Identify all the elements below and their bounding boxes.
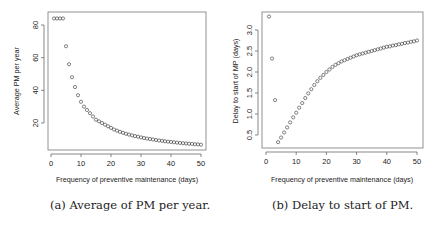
data-point [385, 45, 388, 48]
data-point [85, 108, 88, 111]
data-point [394, 44, 397, 47]
data-point [397, 43, 400, 46]
data-point [376, 48, 379, 51]
data-point [139, 136, 142, 139]
panel-a-plot-box [48, 12, 206, 150]
data-point [289, 121, 292, 124]
x-tick-label: 0 [49, 159, 53, 168]
data-point [343, 59, 346, 62]
data-point [133, 134, 136, 137]
x-tick-label: 50 [413, 157, 421, 166]
panel-b-plot-box [262, 12, 423, 148]
x-tick-label: 10 [292, 157, 300, 166]
data-point [364, 51, 367, 54]
data-point [280, 136, 283, 139]
y-tick-label: 2.5 [245, 46, 254, 56]
data-point [316, 80, 319, 83]
panel-b-x-axis-title: Frequency of preventive maintenance (day… [271, 175, 413, 184]
data-point [70, 76, 73, 79]
data-point [106, 125, 109, 128]
data-point [130, 134, 133, 137]
data-point [64, 45, 67, 48]
data-point [100, 121, 103, 124]
y-tick-label: 3.0 [245, 25, 254, 35]
data-point [337, 62, 340, 65]
data-point [379, 47, 382, 50]
data-point [163, 140, 166, 143]
x-tick-label: 40 [383, 157, 391, 166]
data-point [109, 126, 112, 129]
data-point [415, 39, 418, 42]
panel-a-x-axis: 01020304050 [49, 154, 205, 168]
data-point [97, 120, 100, 123]
data-point [91, 115, 94, 118]
data-point [127, 133, 130, 136]
x-tick-label: 30 [352, 157, 360, 166]
panel-b-caption: (b) Delay to start of PM. [272, 198, 413, 212]
panel-b-x-axis: 01020304050 [264, 152, 421, 166]
y-tick-label: 1.5 [245, 88, 254, 98]
data-point [367, 50, 370, 53]
y-tick-label: 20 [31, 119, 40, 127]
data-point [340, 60, 343, 63]
x-tick-label: 10 [77, 159, 85, 168]
data-point [157, 139, 160, 142]
data-point [175, 141, 178, 144]
panel-a-caption: (a) Average of PM per year. [50, 198, 210, 212]
panel-a-y-axis: 20406080 [31, 21, 44, 127]
data-point [301, 101, 304, 104]
x-tick-label: 40 [167, 159, 175, 168]
data-point [67, 63, 70, 66]
x-tick-label: 50 [197, 159, 205, 168]
data-point [304, 96, 307, 99]
y-tick-label: 80 [31, 21, 40, 29]
figure: 01020304050 20406080 Frequency of preven… [0, 0, 438, 229]
data-point [313, 83, 316, 86]
data-point [292, 116, 295, 119]
data-point [298, 106, 301, 109]
data-point [295, 111, 298, 114]
data-point [79, 100, 82, 103]
data-point [400, 42, 403, 45]
data-point [325, 70, 328, 73]
data-point [103, 123, 106, 126]
data-point [346, 57, 349, 60]
panel-a-chart: 01020304050 20406080 Frequency of preven… [12, 12, 206, 184]
x-tick-label: 20 [107, 159, 115, 168]
panel-b-data-points [267, 15, 418, 144]
data-point [160, 139, 163, 142]
data-point [148, 137, 151, 140]
data-point [178, 141, 181, 144]
data-point [82, 105, 85, 108]
y-tick-label: 60 [31, 53, 40, 61]
data-point [352, 55, 355, 58]
data-point [334, 63, 337, 66]
data-point [409, 40, 412, 43]
x-tick-label: 0 [264, 157, 268, 166]
data-point [142, 136, 145, 139]
data-point [166, 140, 169, 143]
data-point [154, 138, 157, 141]
data-point [124, 132, 127, 135]
data-point [310, 88, 313, 91]
data-point [151, 138, 154, 141]
data-point [273, 99, 276, 102]
data-point [276, 141, 279, 144]
panel-a-x-axis-title: Frequency of preventive maintenance (day… [56, 175, 198, 184]
data-point [355, 54, 358, 57]
y-tick-label: 2.0 [245, 67, 254, 77]
data-point [412, 40, 415, 43]
panel-b-y-axis: 0.51.01.52.02.53.0 [245, 25, 258, 140]
data-point [370, 49, 373, 52]
data-point [94, 118, 97, 121]
data-point [382, 46, 385, 49]
data-point [283, 131, 286, 134]
y-tick-label: 0.5 [245, 130, 254, 140]
data-point [199, 143, 202, 146]
data-point [391, 44, 394, 47]
data-point [358, 53, 361, 56]
data-point [331, 65, 334, 68]
y-tick-label: 40 [31, 86, 40, 94]
data-point [322, 73, 325, 76]
data-point [172, 141, 175, 144]
